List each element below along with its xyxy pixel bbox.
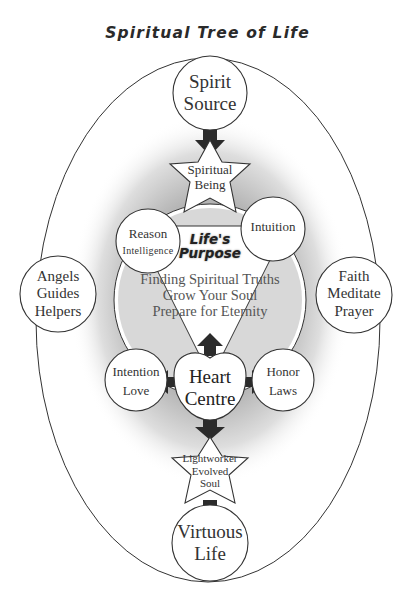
heart-centre-label: Heart Centre xyxy=(170,366,250,410)
purpose-text: Finding Spiritual Truths Grow Your Soul … xyxy=(110,272,310,320)
lightworker-label: Lightworker Evolved Soul xyxy=(170,452,250,490)
faith-label: Faith Meditate Prayer xyxy=(314,268,394,320)
lifes-purpose-heading: Life's Purpose xyxy=(150,232,270,260)
intention-label: Intention Love xyxy=(104,363,168,401)
virtuous-life-label: Virtuous Life xyxy=(170,521,250,565)
spiritual-being-label: Spiritual Being xyxy=(175,163,245,193)
angels-label: Angels Guides Helpers xyxy=(20,268,96,320)
honor-label: Honor Laws xyxy=(251,363,315,401)
spirit-source-label: Spirit Source xyxy=(170,71,250,115)
